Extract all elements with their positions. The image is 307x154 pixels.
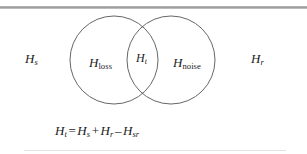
loss-circle-label: Hloss [89,56,112,69]
equation-term3-base: H [123,123,132,138]
intersection-label-subscript: t [145,57,147,66]
equation-term3-subscript: sr [132,129,139,139]
equation-lhs-subscript: t [64,129,66,139]
venn-circles-graphic [0,0,307,154]
outer-left-label: Hs [25,52,38,65]
noise-circle-label-subscript: noise [182,61,201,71]
equation-term2-base: H [101,123,110,138]
equation-term1-subscript: s [87,129,90,139]
loss-circle-label-subscript: loss [98,61,112,71]
equation-term2-subscript: r [110,129,113,139]
equation-plus-operator: + [90,123,100,138]
equation-lhs-base: H [55,123,64,138]
equation: Ht=Hs+Hr–Hsr [55,124,139,137]
noise-circle-label-base: H [173,55,182,70]
outer-right-label-subscript: r [260,57,263,67]
venn-diagram-figure: Hs Hr Hloss Hnoise Ht Ht=Hs+Hr–Hsr [0,0,307,154]
equation-term1-base: H [77,123,86,138]
intersection-label-base: H [136,51,145,65]
loss-circle-label-base: H [89,55,98,70]
intersection-label: Ht [136,52,147,64]
outer-left-label-base: H [25,51,34,66]
equation-minus-operator: – [113,123,123,138]
noise-circle-label: Hnoise [173,56,201,69]
outer-right-label: Hr [251,52,264,65]
bottom-divider-rule [24,150,286,151]
equation-equals-operator: = [67,123,77,138]
outer-right-label-base: H [251,51,260,66]
outer-left-label-subscript: s [34,57,37,67]
